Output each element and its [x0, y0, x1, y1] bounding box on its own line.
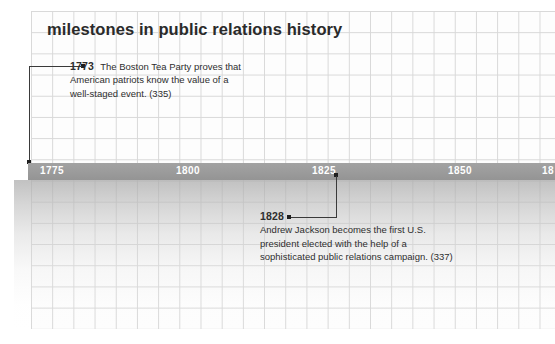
content-panel: milestones in public relations history 1…: [14, 0, 555, 329]
annotation-1828-year: 1828: [260, 210, 284, 222]
annotation-1773-text-line-2: American patriots know the value of a: [70, 73, 305, 86]
axis-tick-1800: 1800: [176, 165, 200, 176]
timeline-axis-bar: [28, 163, 555, 180]
annotation-1828-text-line-1: Andrew Jackson becomes the first U.S.: [260, 223, 510, 236]
timeline-infographic: milestones in public relations history 1…: [0, 0, 555, 344]
annotation-1828-text-line-3: sophisticated public relations campaign.…: [260, 250, 510, 263]
annotation-1773-text-line-1: The Boston Tea Party proves that: [100, 61, 241, 72]
leader-line-1773-vertical: [29, 66, 30, 164]
axis-tick-1825: 1825: [312, 165, 336, 176]
annotation-1828: 1828 Andrew Jackson becomes the first U.…: [260, 210, 510, 264]
annotation-1773: 1773The Boston Tea Party proves that Ame…: [70, 60, 305, 100]
annotation-1773-year: 1773: [70, 60, 94, 72]
annotation-1773-text-line-3: well-staged event. (335): [70, 87, 305, 100]
axis-tick-1775: 1775: [40, 165, 64, 176]
axis-tick-1875-clipped: 18: [542, 165, 554, 176]
annotation-1828-text-line-2: president elected with the help of a: [260, 237, 510, 250]
page-title: milestones in public relations history: [47, 20, 342, 39]
annotation-1773-line-1: 1773The Boston Tea Party proves that: [70, 60, 305, 73]
annotation-1828-year-line: 1828: [260, 210, 510, 223]
axis-tick-1850: 1850: [448, 165, 472, 176]
